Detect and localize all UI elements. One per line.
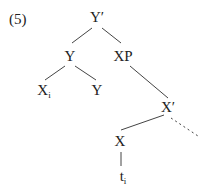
edge-root-xp: [102, 28, 121, 43]
edge-xbar-dashed: [171, 118, 198, 136]
node-x: X: [115, 134, 126, 149]
node-y: Y: [65, 49, 76, 64]
node-root: Y′: [90, 10, 104, 25]
edge-xp-xbar: [130, 66, 168, 98]
node-xi: Xi: [37, 83, 50, 103]
node-trace: ti: [120, 169, 127, 189]
edge-root-y: [72, 28, 92, 43]
node-xbar: X′: [161, 100, 175, 115]
edge-xbar-x: [121, 115, 164, 130]
edge-y-y: [75, 66, 96, 80]
edge-y-xi: [45, 66, 65, 80]
tree-edges: [0, 0, 207, 192]
node-xp: XP: [113, 49, 132, 64]
example-number: (5): [9, 12, 27, 27]
node-y-leaf: Y: [92, 83, 103, 98]
